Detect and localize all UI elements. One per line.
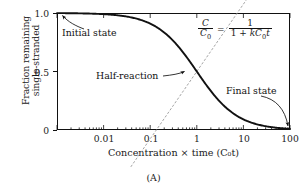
y-tick-label-1.0: 1.0 — [23, 8, 49, 19]
y-axis-title: Fraction remaining single-stranded — [21, 0, 42, 130]
equation-numerator-c: C — [200, 19, 211, 28]
equation-overlay: C C0 = 1 1 + kC0t — [198, 19, 272, 41]
figure-panel-a: Fraction remaining single-stranded 1.0 0… — [0, 0, 307, 195]
x-tick-label-0.1: 0.1 — [131, 133, 171, 144]
annotation-initial-state: Initial state — [62, 27, 117, 38]
y-tick-mark-0.5 — [53, 71, 57, 72]
equation-numerator-one: 1 — [245, 19, 255, 28]
x-tick-label-1: 1 — [177, 133, 217, 144]
equation-right-fraction: 1 1 + kC0t — [229, 19, 272, 41]
x-tick-label-100: 100 — [270, 133, 307, 144]
y-tick-mark-1.0 — [53, 13, 57, 14]
x-tick-label-10: 10 — [224, 133, 264, 144]
figure-caption: (A) — [0, 172, 307, 183]
y-tick-label-0.5: 0.5 — [23, 67, 49, 78]
y-axis-title-line2: single-stranded — [31, 0, 41, 130]
annotation-half-reaction: Half-reaction — [96, 70, 158, 81]
equation-denominator-expression: 1 + kC0t — [229, 28, 272, 41]
x-tick-label-0.01: 0.01 — [84, 133, 124, 144]
equation-equals-sign: = — [216, 25, 226, 35]
y-tick-label-0: 0 — [23, 125, 49, 136]
x-axis-title: Concentration × time (C₀t) — [57, 147, 290, 158]
equation-denominator-c0: C0 — [198, 28, 213, 41]
annotation-final-state: Final state — [226, 85, 277, 96]
y-tick-mark-0 — [53, 130, 57, 131]
equation-left-fraction: C C0 — [198, 19, 213, 41]
